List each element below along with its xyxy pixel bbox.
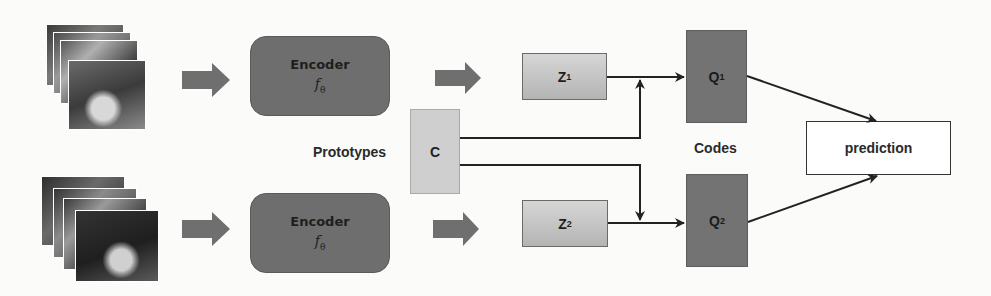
prototypes-label: Prototypes: [313, 144, 386, 160]
input-frames-top: [46, 24, 146, 130]
frame: [68, 60, 146, 130]
encoder-function: fθ: [315, 233, 326, 252]
embedding-z1: Z1: [522, 53, 607, 100]
prototypes-c: C: [410, 109, 460, 194]
input-frames-bottom: [41, 176, 159, 282]
encoder-function: fθ: [315, 76, 326, 95]
block-arrow-icon: [433, 212, 481, 246]
encoder-bottom: Encoder fθ: [250, 193, 390, 273]
code-q1: Q1: [686, 30, 747, 123]
encoder-top: Encoder fθ: [250, 36, 390, 116]
prediction-box: prediction: [806, 121, 951, 175]
codes-label: Codes: [694, 140, 737, 156]
block-arrow-icon: [435, 62, 483, 94]
encoder-label: Encoder: [290, 214, 349, 229]
frame: [75, 210, 159, 282]
encoder-label: Encoder: [290, 57, 349, 72]
block-arrow-icon: [182, 212, 230, 246]
code-q2: Q2: [686, 174, 748, 267]
block-arrow-icon: [182, 63, 230, 97]
embedding-z2: Z2: [522, 200, 608, 247]
